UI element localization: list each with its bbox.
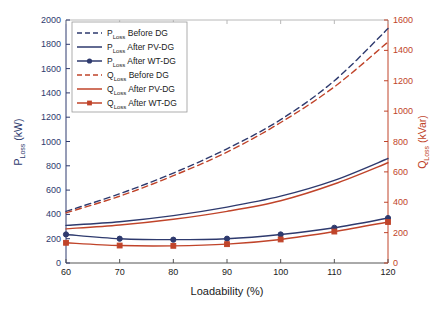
series-marker <box>224 236 229 241</box>
x-tick-label: 120 <box>380 267 395 277</box>
x-tick-label: 60 <box>61 267 71 277</box>
y-right-axis-title: QLoss (kVar) <box>416 115 430 169</box>
legend-marker <box>87 101 92 106</box>
series-marker <box>278 232 283 237</box>
series-marker <box>278 237 283 242</box>
series-marker <box>63 232 68 237</box>
y-left-tick-label: 1800 <box>41 39 61 49</box>
y-left-tick-label: 0 <box>56 258 61 268</box>
y-left-tick-label: 2000 <box>41 15 61 25</box>
series-marker <box>64 240 69 245</box>
x-tick-label: 110 <box>327 267 341 277</box>
x-tick-label: 70 <box>115 267 125 277</box>
y-right-tick-label: 1000 <box>393 106 413 116</box>
y-left-tick-label: 600 <box>46 185 61 195</box>
y-right-tick-label: 200 <box>393 228 408 238</box>
y-right-tick-label: 0 <box>393 258 398 268</box>
x-tick-label: 100 <box>273 267 288 277</box>
series-marker <box>225 242 230 247</box>
y-right-tick-label: 400 <box>393 197 408 207</box>
y-left-tick-label: 1200 <box>41 112 61 122</box>
legend-marker <box>87 58 92 63</box>
y-left-tick-label: 200 <box>46 234 61 244</box>
y-left-tick-label: 400 <box>46 209 61 219</box>
series-marker <box>386 220 391 225</box>
y-right-tick-label: 800 <box>393 137 408 147</box>
legend[interactable]: PLoss Before DGPLoss After PV-DGPLoss Af… <box>72 22 187 112</box>
x-tick-label: 80 <box>168 267 178 277</box>
series-marker <box>117 243 122 248</box>
figure-canvas: 6070809010011012002004006008001000120014… <box>0 0 445 317</box>
x-axis-title: Loadability (%) <box>191 285 264 297</box>
chart-svg: 6070809010011012002004006008001000120014… <box>0 0 445 317</box>
y-left-tick-label: 1000 <box>41 137 61 147</box>
y-right-tick-label: 1200 <box>393 76 413 86</box>
y-right-tick-label: 1400 <box>393 45 413 55</box>
y-right-tick-label: 600 <box>393 167 408 177</box>
series-marker <box>171 243 176 248</box>
x-tick-label: 90 <box>222 267 232 277</box>
y-right-tick-label: 1600 <box>393 15 413 25</box>
y-left-tick-label: 800 <box>46 161 61 171</box>
y-left-tick-label: 1400 <box>41 88 61 98</box>
series-marker <box>117 236 122 241</box>
series-marker <box>332 229 337 234</box>
svg-text:QLoss (kVar): QLoss (kVar) <box>416 115 430 169</box>
y-left-tick-label: 1600 <box>41 64 61 74</box>
series-marker <box>171 237 176 242</box>
